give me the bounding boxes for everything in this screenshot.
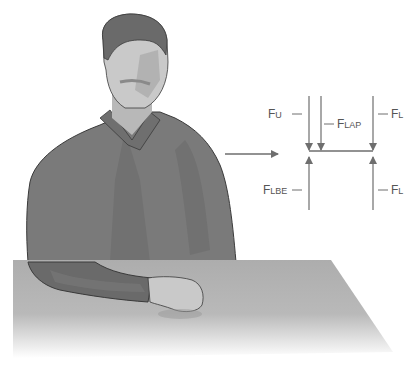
- force-diagram: FU FLAP FL FLBE FL: [263, 96, 403, 210]
- label-flap: FLAP: [337, 117, 361, 131]
- illustration: FU FLAP FL FLBE FL: [0, 0, 414, 370]
- label-flbe: FLBE: [263, 183, 287, 197]
- label-fu: FU: [268, 107, 282, 121]
- label-fl-top: FL: [391, 107, 403, 121]
- label-fl-bottom: FL: [391, 183, 403, 197]
